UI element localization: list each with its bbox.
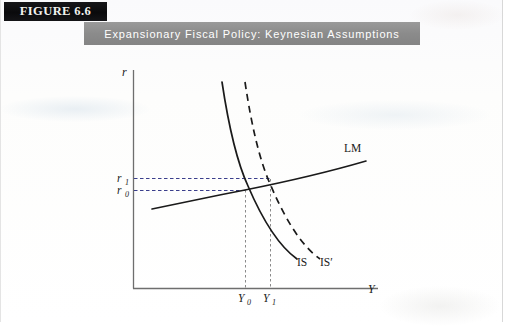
Y0-tick-label: Y 0 (238, 292, 251, 307)
r1-base: r (117, 172, 122, 184)
Y1-base: Y (263, 292, 271, 304)
is-prime-curve (245, 82, 320, 259)
y-axis-label: r (122, 65, 127, 79)
Y1-subscript: 1 (272, 298, 276, 307)
r0-subscript: 0 (125, 190, 129, 199)
r1-subscript: 1 (125, 178, 129, 187)
lm-curve-label: LM (344, 142, 361, 154)
Y0-base: Y (238, 292, 246, 304)
lm-curve (152, 161, 366, 209)
Y0-subscript: 0 (247, 298, 251, 307)
is-prime-curve-label: IS′ (320, 256, 333, 268)
is-curve (222, 82, 297, 259)
r0-base: r (117, 184, 122, 196)
Y1-tick-label: Y 1 (263, 292, 276, 307)
is-curve-label: IS (297, 256, 307, 268)
